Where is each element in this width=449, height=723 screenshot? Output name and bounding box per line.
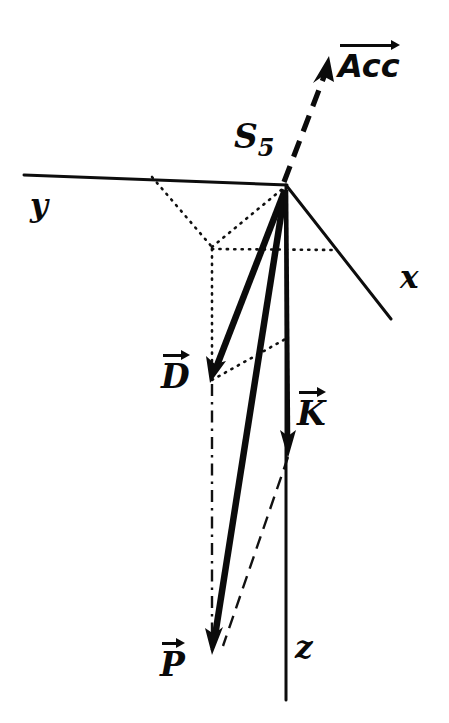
- axis-label-x: x: [400, 262, 418, 293]
- point-label-s5: S5: [234, 120, 275, 160]
- vector-acc-graphic: [284, 56, 334, 182]
- vector-p-shaft: [286, 190, 288, 440]
- axis-label-z: z: [295, 632, 313, 663]
- vector-label-d: D: [161, 348, 190, 393]
- vector-label-p: K: [297, 385, 326, 430]
- vector-label-k: P: [160, 636, 185, 681]
- vector-arrow-overbar-icon: [297, 385, 326, 399]
- vector-arrow-overbar-icon: [160, 636, 185, 650]
- vector-d-shaft: [216, 190, 285, 368]
- vector-p-graphic: [280, 190, 296, 458]
- vector-acc-shaft: [284, 74, 325, 182]
- vector-k-shaft: [215, 190, 285, 636]
- vector-label-d-text: D: [161, 360, 190, 393]
- diagram-canvas: [0, 0, 449, 723]
- axis-label-y: y: [30, 190, 48, 221]
- axes-group: [24, 175, 391, 700]
- vector-arrow-overbar-icon: [338, 38, 400, 52]
- vector-label-p-text: K: [297, 397, 326, 430]
- vector-diagram-figure: y x z S5 Acc D K P: [0, 0, 449, 723]
- point-label-s5-base: S: [234, 117, 258, 156]
- vector-label-acc-text: Acc: [338, 50, 400, 82]
- dashed-p-down-to-k: [223, 457, 288, 646]
- vector-arrow-overbar-icon: [161, 348, 190, 362]
- dotted-y-to-corner: [152, 177, 212, 247]
- vector-label-k-text: P: [160, 648, 185, 681]
- vector-label-acc: Acc: [338, 38, 400, 82]
- x-axis-line: [286, 185, 391, 319]
- point-label-s5-subscript: 5: [258, 133, 275, 162]
- y-axis-line: [24, 175, 287, 185]
